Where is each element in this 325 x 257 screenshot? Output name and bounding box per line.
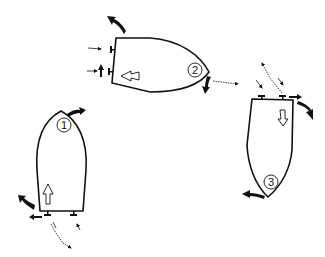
boat-1-number: 1: [57, 118, 71, 132]
bold-thrust-arrow-icon: [98, 64, 104, 77]
thin-thrust-arrow-icon: [53, 222, 56, 228]
thin-thrust-arrow-icon: [77, 224, 80, 230]
wavy-propwash-arrow-icon: [262, 63, 282, 93]
diagram-canvas: 1 2: [0, 0, 325, 257]
bold-curved-arrow-icon: [107, 16, 126, 34]
svg-text:1: 1: [61, 119, 67, 131]
wavy-propwash-arrow-icon: [213, 81, 238, 84]
boat-1: 1: [18, 107, 86, 248]
bold-thrust-arrow-icon: [289, 94, 302, 100]
bold-curved-arrow-icon: [297, 101, 313, 120]
boat-2-number: 2: [188, 63, 202, 77]
bold-curved-arrow-icon: [18, 195, 35, 210]
boat-3-number: 3: [264, 175, 278, 189]
thin-thrust-arrow-icon: [88, 48, 101, 49]
thin-thrust-arrow-icon: [278, 78, 283, 85]
svg-text:2: 2: [192, 64, 198, 76]
boat-2: 2: [87, 16, 238, 94]
wavy-propwash-arrow-icon: [51, 224, 71, 248]
bold-curved-arrow-icon: [67, 107, 86, 117]
thin-thrust-arrow-icon: [256, 80, 262, 88]
bold-thrust-arrow-icon: [29, 214, 42, 220]
boat-3: 3: [242, 63, 313, 199]
bold-curved-arrow-icon: [242, 190, 265, 199]
svg-text:3: 3: [268, 176, 274, 188]
